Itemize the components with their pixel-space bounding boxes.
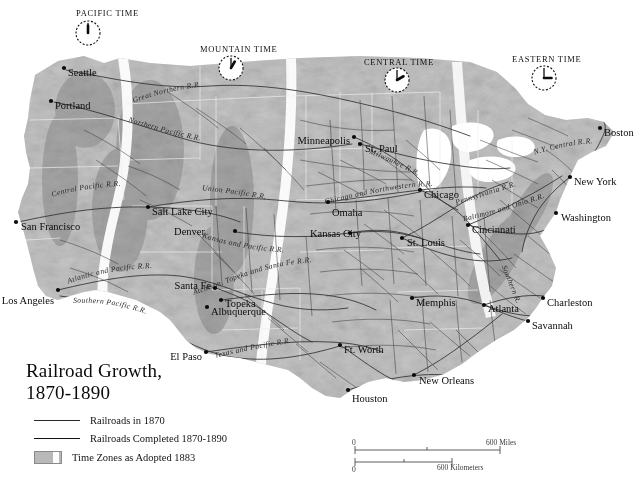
city-label: Seattle [68, 67, 97, 78]
city-dot [346, 388, 350, 392]
city-marker: Seattle [62, 66, 97, 78]
city-label: Albuquerque [211, 306, 266, 317]
city-dot [205, 305, 209, 309]
city-label: Ft. Worth [344, 344, 385, 355]
city-marker: New Orleans [412, 373, 474, 386]
city-label: St. Paul [365, 143, 398, 154]
city-dot [326, 200, 330, 204]
city-dot [204, 350, 208, 354]
city-marker: Charleston [541, 296, 593, 308]
city-dot [526, 319, 530, 323]
city-marker: Ft. Worth [338, 343, 385, 355]
scale-km-max: 600 Kilometers [437, 463, 484, 472]
city-dot [213, 286, 217, 290]
city-marker: Cincinnati [466, 223, 516, 235]
city-label: Kansas City [310, 228, 362, 239]
city-marker: Salt Lake City [146, 205, 214, 217]
city-label: New Orleans [419, 375, 474, 386]
city-label: Chicago [424, 189, 459, 200]
map-title-line1: Railroad Growth, [26, 360, 296, 382]
city-marker: San Francisco [14, 220, 80, 232]
city-dot [338, 343, 342, 347]
city-label: Atlanta [488, 303, 519, 314]
city-dot [56, 288, 60, 292]
city-marker: Atlanta [482, 303, 519, 314]
city-label: Los Angeles [2, 295, 54, 306]
city-label: Omaha [332, 207, 363, 218]
city-marker: Portland [49, 99, 91, 111]
legend-label-railroads-1870: Railroads in 1870 [90, 415, 165, 426]
city-label: Minneapolis [298, 135, 351, 146]
city-dot [418, 188, 422, 192]
city-label: Santa Fe [175, 280, 212, 291]
city-dot [62, 66, 66, 70]
city-marker: Chicago [418, 188, 459, 200]
city-marker: Minneapolis [298, 135, 357, 146]
city-label: Salt Lake City [152, 206, 213, 217]
city-dot [466, 223, 470, 227]
city-label: Portland [55, 100, 91, 111]
scale-miles-zero: 0 [352, 438, 356, 447]
city-marker: Washington [554, 211, 612, 223]
legend-item-railroads-1870-1890: Railroads Completed 1870-1890 [34, 433, 296, 444]
scale-miles-max: 600 Miles [486, 438, 516, 447]
city-dot [352, 135, 356, 139]
city-dot [49, 99, 53, 103]
city-dot [410, 296, 414, 300]
legend-swatch-line-1870 [34, 420, 80, 421]
city-dot [568, 175, 572, 179]
city-label: Washington [561, 212, 612, 223]
city-dot [541, 296, 545, 300]
legend-item-railroads-1870: Railroads in 1870 [34, 415, 296, 426]
time-zone-label: PACIFIC TIME [76, 8, 139, 18]
city-label: Denver [174, 226, 205, 237]
city-dot [14, 220, 18, 224]
city-marker: Memphis [410, 296, 456, 308]
city-label: Memphis [416, 297, 456, 308]
city-dot [400, 236, 404, 240]
legend-swatch-line-1870-1890 [34, 438, 80, 439]
city-marker: Savannah [526, 319, 574, 331]
city-dot [554, 211, 558, 215]
city-dot [146, 205, 150, 209]
city-dot [219, 298, 223, 302]
time-zone-label: EASTERN TIME [512, 54, 581, 64]
city-label: Cincinnati [472, 224, 516, 235]
city-label: Charleston [547, 297, 593, 308]
city-marker: St. Louis [400, 236, 445, 248]
legend-label-railroads-1870-1890: Railroads Completed 1870-1890 [90, 433, 227, 444]
city-label: Boston [604, 127, 635, 138]
legend-item-time-zones: Time Zones as Adopted 1883 [34, 451, 296, 464]
map-legend: Railroad Growth, 1870-1890 Railroads in … [26, 360, 296, 471]
city-marker: New York [568, 175, 617, 187]
railroad-growth-map: Great Northern R.R. Northern Pacific R.R… [0, 0, 635, 478]
legend-swatch-time-zones [34, 451, 62, 464]
city-label: San Francisco [21, 221, 80, 232]
city-marker: Albuquerque [205, 305, 266, 317]
time-zone-label: MOUNTAIN TIME [200, 44, 277, 54]
city-dot [598, 126, 602, 130]
city-label: Savannah [532, 320, 574, 331]
city-dot [412, 373, 416, 377]
legend-label-time-zones: Time Zones as Adopted 1883 [72, 452, 195, 463]
city-dot [482, 303, 486, 307]
city-marker: Boston [598, 126, 635, 138]
time-zone-label: CENTRAL TIME [364, 57, 434, 67]
scale-km-zero: 0 [352, 465, 356, 474]
city-label: New York [574, 176, 617, 187]
city-label: Houston [352, 393, 388, 404]
city-label: St. Louis [407, 237, 445, 248]
city-dot [358, 142, 362, 146]
map-title-line2: 1870-1890 [26, 382, 296, 404]
city-dot [233, 229, 237, 233]
city-marker: Santa Fe [175, 280, 218, 291]
city-marker: Kansas City [310, 228, 362, 239]
